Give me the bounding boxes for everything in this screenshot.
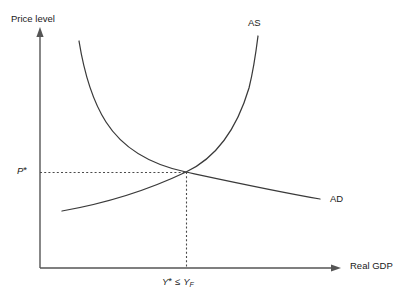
full-employment-output-subscript: F (190, 281, 194, 288)
as-curve-label: AS (248, 18, 261, 28)
ad-curve-label: AD (330, 194, 343, 204)
y-axis-title: Price level (11, 14, 55, 24)
x-axis-title: Real GDP (350, 261, 393, 271)
x-axis-arrowhead-icon (331, 264, 341, 271)
ad-curve (79, 41, 320, 199)
as-curve (62, 36, 258, 211)
diagram-canvas (0, 0, 411, 301)
equilibrium-output-relation-icon: ≤ (175, 276, 180, 287)
equilibrium-price-star: * (23, 164, 27, 175)
equilibrium-price-label: P* (17, 166, 27, 176)
full-employment-output-symbol: Y (183, 276, 189, 287)
y-axis (36, 27, 43, 268)
equilibrium-output-label: Y*≤YF (162, 277, 194, 287)
y-axis-arrowhead-icon (36, 27, 43, 37)
x-axis (40, 264, 341, 271)
as-ad-diagram: Price level Real GDP AS AD P* Y*≤YF (0, 0, 411, 301)
equilibrium-output-star: * (168, 275, 172, 286)
